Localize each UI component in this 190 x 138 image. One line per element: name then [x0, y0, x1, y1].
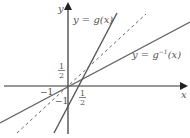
function-label: y = g(x) — [72, 14, 113, 25]
graph: y x y = g(x) y = g−1(x) 1 2 1 2 −1 −1 — [0, 0, 190, 138]
inverse-function-line — [0, 22, 190, 123]
svg-text:1: 1 — [80, 89, 85, 98]
svg-text:1: 1 — [59, 62, 64, 71]
svg-text:2: 2 — [59, 71, 64, 80]
x-tick-half: 1 2 — [79, 89, 86, 107]
y-tick-half: 1 2 — [58, 62, 65, 80]
x-axis-label: x — [181, 89, 187, 100]
inverse-function-label: y = g−1(x) — [131, 48, 181, 60]
svg-text:2: 2 — [80, 98, 85, 107]
x-tick-neg1: −1 — [40, 87, 53, 97]
y-tick-neg1: −1 — [55, 96, 68, 106]
identity-line — [17, 14, 146, 133]
y-axis-label: y — [57, 3, 64, 14]
